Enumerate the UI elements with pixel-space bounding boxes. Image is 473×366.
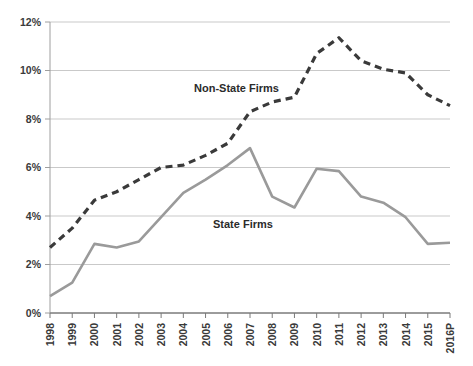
x-axis-tick-label: 2016P [444, 323, 456, 353]
x-axis-labels-group: 1998199920002001200220032004200520062007… [44, 323, 456, 354]
gridlines-group [50, 22, 450, 313]
chart-container: 0%2%4%6%8%10%12% 19981999200020012002200… [0, 0, 473, 366]
y-axis-tick-label: 2% [26, 258, 42, 270]
x-axis-ticks-group [50, 313, 450, 318]
series-paths-group [50, 38, 450, 296]
y-axis-tick-label: 10% [20, 64, 42, 76]
x-axis-tick-label: 2014 [400, 323, 412, 347]
x-axis-tick-label: 2006 [222, 323, 234, 347]
x-axis-tick-label: 2015 [422, 323, 434, 347]
annotation-state-firms: State Firms [213, 218, 273, 230]
y-axis-labels-group: 0%2%4%6%8%10%12% [20, 16, 42, 319]
y-axis-tick-label: 0% [26, 307, 42, 319]
x-axis-tick-label: 2009 [288, 323, 300, 347]
x-axis-tick-label: 2011 [333, 323, 345, 346]
x-axis-tick-label: 2002 [133, 323, 145, 347]
x-axis-tick-label: 2000 [88, 323, 100, 347]
line-chart: 0%2%4%6%8%10%12% 19981999200020012002200… [0, 0, 473, 366]
x-axis-tick-label: 2013 [377, 323, 389, 347]
x-axis-tick-label: 2010 [311, 323, 323, 347]
y-axis-tick-label: 4% [26, 210, 42, 222]
y-axis-ticks-group [45, 22, 50, 313]
y-axis-tick-label: 6% [26, 161, 42, 173]
annotation-non-state-firms: Non-State Firms [194, 82, 279, 94]
y-axis-tick-label: 8% [26, 113, 42, 125]
x-axis-tick-label: 2008 [266, 323, 278, 347]
x-axis-tick-label: 1999 [66, 323, 78, 347]
x-axis-tick-label: 1998 [44, 323, 56, 347]
x-axis-tick-label: 2005 [200, 323, 212, 347]
x-axis-tick-label: 2001 [111, 323, 123, 347]
x-axis-tick-label: 2004 [177, 323, 189, 347]
x-axis-tick-label: 2007 [244, 323, 256, 347]
x-axis-tick-label: 2003 [155, 323, 167, 347]
x-axis-tick-label: 2012 [355, 323, 367, 347]
y-axis-tick-label: 12% [20, 16, 42, 28]
